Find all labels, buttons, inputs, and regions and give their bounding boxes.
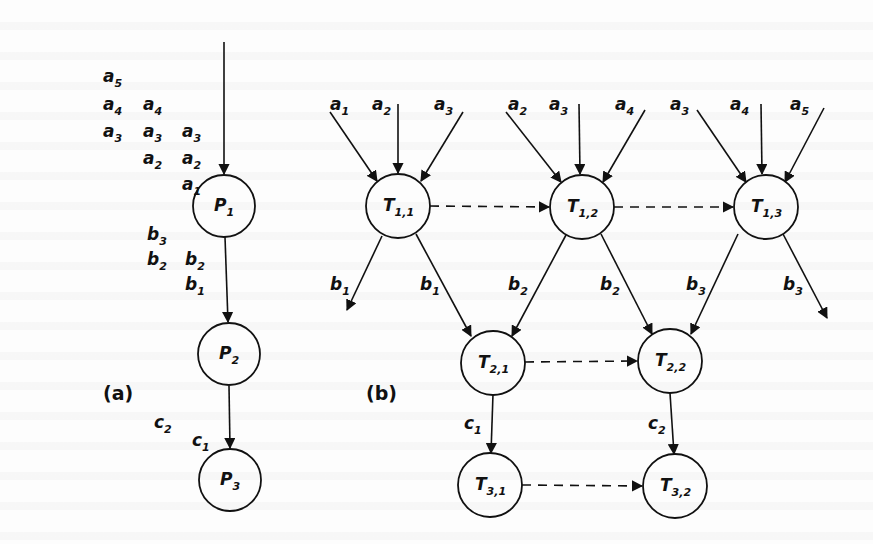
edge-a1-t11 (330, 112, 377, 181)
stream-label-a2: a2 (372, 94, 391, 118)
edge-p2-p3 (229, 386, 230, 448)
panel-b-edges (330, 104, 827, 454)
stream-label-b3: b3 (686, 274, 706, 298)
stream-label-b1: b1 (330, 274, 350, 298)
stream-label-b1: b1 (420, 274, 440, 298)
stream-label-b3: b3 (783, 274, 803, 298)
node-t12: T1,2 (550, 175, 614, 239)
node-t22: T2,2 (638, 329, 702, 393)
node-t21: T2,1 (461, 331, 525, 395)
stream-label-c1: c1 (464, 413, 482, 437)
stream-label-a4: a4 (143, 94, 162, 118)
stream-label-b1: b1 (185, 274, 205, 298)
node-t31: T3,1 (458, 453, 522, 517)
edge-a2-t12 (506, 112, 561, 182)
stream-label-a3: a3 (143, 121, 162, 145)
stream-label-a3: a3 (670, 94, 689, 118)
stream-label-a3: a3 (549, 94, 568, 118)
node-p2: P2 (198, 323, 260, 385)
node-t32: T3,2 (643, 454, 707, 518)
edge-t11-b1-out (347, 236, 382, 310)
edge-a3-t11 (421, 112, 463, 181)
edge-a3-t13 (697, 110, 746, 182)
panel-a-edges (224, 42, 230, 448)
stream-label-a4: a4 (103, 94, 122, 118)
dashed-edge-t11-t12 (430, 206, 549, 207)
stream-label-a5: a5 (790, 94, 809, 118)
stream-label-b2: b2 (185, 249, 205, 273)
edge-a4-t13 (761, 104, 762, 174)
node-t13: T1,3 (734, 175, 798, 239)
stream-label-c1: c1 (192, 430, 210, 454)
stream-label-a2: a2 (508, 94, 527, 118)
stream-label-a2: a2 (182, 148, 201, 172)
node-t11: T1,1 (366, 174, 430, 238)
stream-label-a5: a5 (103, 66, 122, 90)
edge-t21-t31 (491, 394, 493, 453)
stream-label-a3: a3 (434, 94, 453, 118)
dag-figure: P1P2P3 T1,1T1,2T1,3T2,1T2,2T3,1T3,2 a5a4… (0, 0, 873, 544)
dashed-edge-t21-t22 (525, 361, 637, 362)
panel-b-nodes: T1,1T1,2T1,3T2,1T2,2T3,1T3,2 (366, 174, 798, 518)
stream-label-b2: b2 (600, 274, 620, 298)
stream-label-a4: a4 (615, 94, 634, 118)
edge-t22-t32 (670, 393, 674, 454)
edge-a4-t12 (603, 110, 645, 182)
stream-label-a4: a4 (730, 94, 749, 118)
stream-label-b2: b2 (508, 274, 528, 298)
edge-a3-t12 (579, 104, 580, 174)
stream-label-b3: b3 (147, 224, 167, 248)
panel-a-label: (a) (103, 382, 133, 404)
stream-label-c2: c2 (154, 412, 172, 436)
panel-a-nodes: P1P2P3 (193, 175, 261, 511)
stream-label-a3: a3 (182, 121, 201, 145)
node-p3: P3 (199, 449, 261, 511)
stream-label-a1: a1 (330, 94, 349, 118)
figure-canvas: P1P2P3 T1,1T1,2T1,3T2,1T2,2T3,1T3,2 a5a4… (0, 0, 873, 544)
node-p1: P1 (193, 175, 255, 237)
stream-label-c2: c2 (648, 413, 666, 437)
dashed-edge-t31-t32 (522, 485, 642, 486)
stream-label-b2: b2 (147, 249, 167, 273)
stream-label-a3: a3 (103, 121, 122, 145)
stream-label-a1: a1 (182, 174, 201, 198)
edge-p1-p2 (225, 237, 228, 322)
edge-a5-t13 (785, 108, 824, 182)
stream-label-a2: a2 (143, 148, 162, 172)
panel-b-label: (b) (366, 382, 397, 404)
